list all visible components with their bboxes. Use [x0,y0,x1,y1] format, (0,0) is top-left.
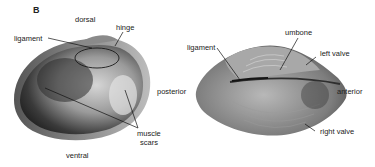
label-ligament-right: ligament [187,44,215,52]
label-right-valve: right valve [320,128,354,136]
figure-illustration [0,0,375,167]
right-shell-image [196,45,347,135]
panel-label: B [33,5,40,15]
label-muscle-scars-line1: muscle [137,130,161,138]
label-ventral: ventral [66,152,89,160]
label-posterior: posterior [157,88,186,96]
label-dorsal: dorsal [75,16,95,24]
label-left-valve: left valve [320,50,350,58]
label-anterior: anterior [337,88,362,96]
label-muscle-scars-line2: scars [140,139,158,147]
label-hinge: hinge [116,24,134,32]
label-ligament-left: ligament [14,35,42,43]
label-umbone: umbone [285,29,312,37]
